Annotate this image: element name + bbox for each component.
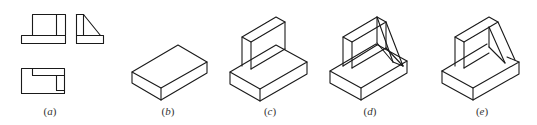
panel-a-top-view <box>22 69 65 94</box>
panel-a-label: (a) <box>44 105 57 117</box>
panel-b-label: (b) <box>162 105 175 117</box>
panel-d-label: (d) <box>364 105 377 117</box>
panel-c-label: (c) <box>264 105 276 117</box>
panel-c-base-with-wall <box>230 17 307 101</box>
panel-e-label: (e) <box>476 105 488 117</box>
panel-a-side-view <box>77 15 104 44</box>
panel-b-base-plate <box>132 45 207 100</box>
panel-e-finished-bracket <box>442 17 519 100</box>
panel-a-front-view <box>22 15 66 44</box>
panel-d-base-wall-rib <box>330 17 407 100</box>
